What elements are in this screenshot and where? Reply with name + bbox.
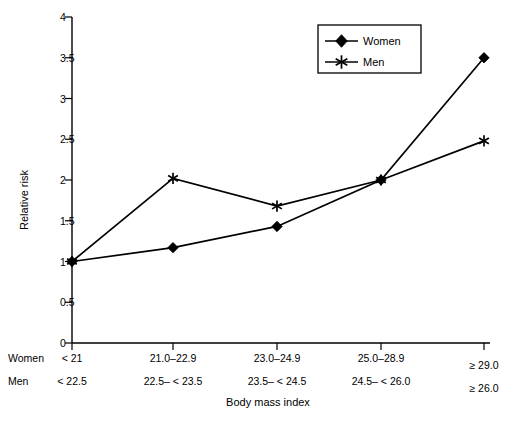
men-cat-label-5: ≥ 26.0 xyxy=(469,382,498,394)
women-cat-label-4: 25.0–28.9 xyxy=(358,352,405,364)
women-cat-label-1: < 21 xyxy=(62,352,83,364)
y-axis-ticks xyxy=(65,17,72,343)
category-label-rows: Women Men < 21 21.0–22.9 23.0–24.9 25.0–… xyxy=(8,352,499,394)
y-tick-label-1p5: 1.5 xyxy=(60,215,75,227)
women-cat-label-3: 23.0–24.9 xyxy=(254,352,301,364)
legend-label-women: Women xyxy=(363,35,401,47)
men-cat-label-2: 22.5– < 23.5 xyxy=(144,375,203,387)
men-cat-label-3: 23.5– < 24.5 xyxy=(248,375,307,387)
relative-risk-line-chart: 4 3.5 3 2.5 2 1.5 1 0.5 0 Relative risk xyxy=(0,0,515,428)
legend: Women Men xyxy=(318,25,421,73)
chart-figure: 4 3.5 3 2.5 2 1.5 1 0.5 0 Relative risk xyxy=(0,0,515,428)
y-tick-label-0: 0 xyxy=(60,337,66,349)
women-cat-label-2: 21.0–22.9 xyxy=(150,352,197,364)
row-header-men: Men xyxy=(8,375,29,387)
y-tick-label-1: 1 xyxy=(60,256,66,268)
y-tick-label-2: 2 xyxy=(60,174,66,186)
men-cat-label-1: < 22.5 xyxy=(57,375,87,387)
x-axis-title: Body mass index xyxy=(226,396,310,408)
y-tick-label-0p5: 0.5 xyxy=(60,296,75,308)
y-tick-label-3p5: 3.5 xyxy=(60,52,75,64)
series-layer xyxy=(67,53,489,268)
series-men xyxy=(67,135,489,267)
y-axis-title: Relative risk xyxy=(18,170,30,230)
y-tick-label-4: 4 xyxy=(60,11,66,23)
women-cat-label-5: ≥ 29.0 xyxy=(469,359,498,371)
row-header-women: Women xyxy=(8,352,44,364)
data-point-men-5 xyxy=(479,135,489,146)
data-point-women-3 xyxy=(272,221,282,231)
series-line-men xyxy=(72,141,484,262)
series-women xyxy=(67,53,489,267)
data-point-women-2 xyxy=(168,242,178,252)
data-point-men-2 xyxy=(168,173,178,184)
men-cat-label-4: 24.5– < 26.0 xyxy=(352,375,411,387)
y-tick-label-3: 3 xyxy=(60,93,66,105)
y-axis: 4 3.5 3 2.5 2 1.5 1 0.5 0 Relative risk xyxy=(18,11,75,349)
legend-label-men: Men xyxy=(363,56,384,68)
y-tick-label-2p5: 2.5 xyxy=(60,133,75,145)
x-axis-ticks xyxy=(72,343,484,350)
